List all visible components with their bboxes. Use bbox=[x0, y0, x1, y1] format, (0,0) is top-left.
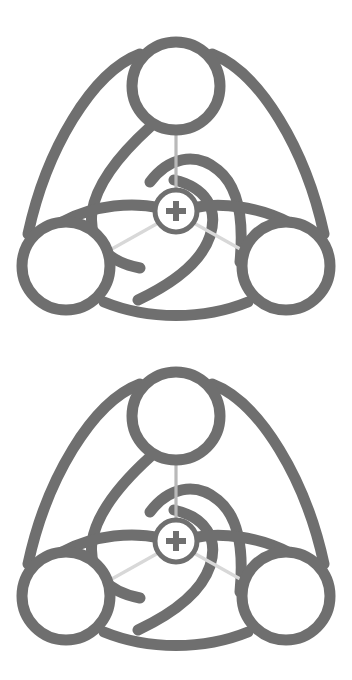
figure-bottom bbox=[0, 340, 352, 670]
circle-top[interactable] bbox=[132, 372, 220, 460]
outer-arc-bottom bbox=[104, 632, 248, 646]
page-canvas bbox=[0, 0, 352, 680]
center-hub-group-bottom[interactable] bbox=[155, 520, 197, 562]
outer-arc-bottom bbox=[104, 302, 248, 316]
trefoil-rotor-symbol-bottom bbox=[0, 340, 352, 670]
spoke-bottom-left bbox=[110, 222, 160, 250]
circle-bottom-right[interactable] bbox=[242, 222, 330, 310]
center-hub-group-top[interactable] bbox=[155, 190, 197, 232]
circle-bottom-left[interactable] bbox=[22, 222, 110, 310]
trefoil-rotor-symbol-top bbox=[0, 10, 352, 340]
spoke-bottom-left bbox=[110, 552, 160, 580]
circle-top[interactable] bbox=[132, 42, 220, 130]
circle-bottom-right[interactable] bbox=[242, 552, 330, 640]
figure-top bbox=[0, 10, 352, 340]
circle-bottom-left[interactable] bbox=[22, 552, 110, 640]
